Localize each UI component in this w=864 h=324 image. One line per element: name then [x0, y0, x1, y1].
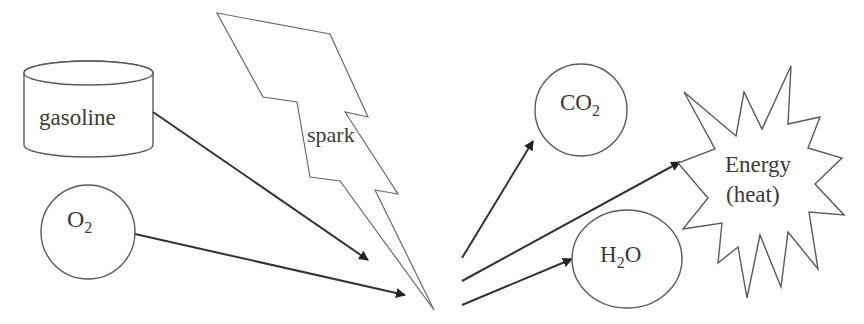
h2o-ellipse: H2O — [572, 210, 682, 308]
energy-label: Energy — [725, 152, 792, 177]
co2-label: CO — [560, 90, 592, 115]
h2o-label-h: H — [600, 242, 617, 267]
heat-label: (heat) — [726, 182, 780, 207]
spark-label: spark — [307, 122, 355, 147]
gasoline-cylinder: gasoline — [24, 61, 153, 157]
arrow-o2-to-reaction — [135, 234, 405, 295]
spark-bolt: spark — [217, 13, 434, 310]
co2-circle: CO2 — [535, 64, 627, 156]
arrow-to-co2 — [462, 141, 533, 258]
h2o-subscript: 2 — [617, 254, 625, 271]
energy-starburst: Energy (heat) — [678, 66, 844, 298]
o2-subscript: 2 — [84, 219, 92, 236]
co2-subscript: 2 — [592, 102, 600, 119]
lightning-bolt-icon — [217, 13, 434, 310]
arrow-to-h2o — [462, 259, 572, 305]
gasoline-label: gasoline — [39, 105, 116, 130]
o2-circle: O2 — [41, 185, 135, 279]
o2-label: O — [67, 206, 84, 232]
h2o-label-o: O — [625, 242, 642, 267]
combustion-diagram: spark gasoline O2 CO2 H2O Energy (hea — [0, 0, 864, 324]
